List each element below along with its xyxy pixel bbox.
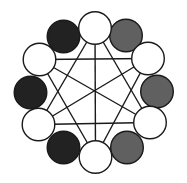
node-upper-right-white bbox=[132, 42, 165, 75]
node-right-gray bbox=[141, 75, 174, 108]
nodes-layer bbox=[14, 12, 173, 174]
node-lower-left-white bbox=[22, 108, 55, 141]
node-upper-left-white bbox=[23, 43, 56, 76]
edge-top-white-to-bottom-white bbox=[95, 28, 96, 157]
hexagram-graph-diagram bbox=[0, 0, 187, 183]
node-left-dark bbox=[14, 76, 47, 109]
node-top-white bbox=[79, 12, 112, 45]
node-bottom-white bbox=[79, 141, 112, 174]
node-lower-right-white bbox=[134, 106, 167, 139]
node-bottom-left-dark bbox=[47, 131, 80, 164]
node-top-left-dark bbox=[47, 20, 80, 53]
node-bottom-right-gray bbox=[111, 131, 144, 164]
